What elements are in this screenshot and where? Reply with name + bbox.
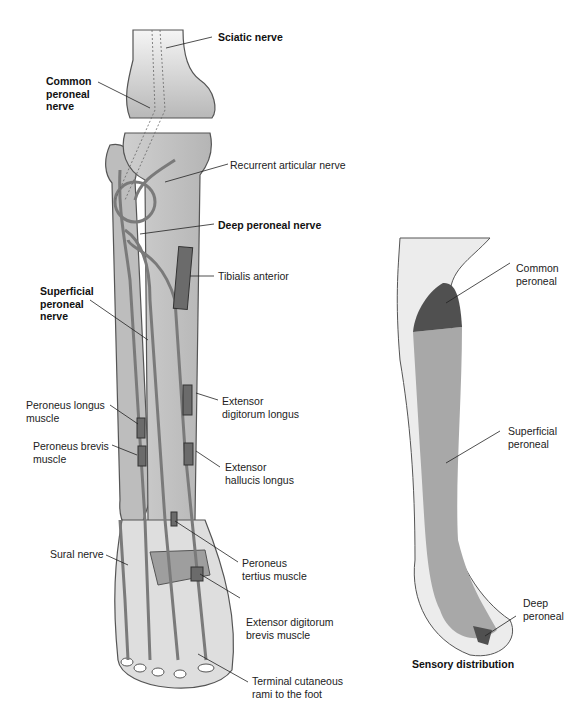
label-common-peroneal-nerve: Common peroneal nerve [46, 75, 92, 113]
label-extensor-hallucis-longus: Extensor hallucis longus [225, 461, 294, 486]
label-peroneus-tertius: Peroneus tertius muscle [242, 557, 307, 582]
label-peroneus-brevis: Peroneus brevis muscle [33, 440, 109, 465]
label-extensor-digitorum-longus: Extensor digitorum longus [222, 395, 299, 420]
label-tibialis-anterior: Tibialis anterior [218, 270, 289, 283]
label-deep-peroneal-nerve: Deep peroneal nerve [218, 219, 321, 232]
label-terminal-cutaneous-rami: Terminal cutaneous rami to the foot [252, 675, 343, 700]
label-peroneus-longus: Peroneus longus muscle [26, 399, 105, 424]
sensory-distribution-title: Sensory distribution [412, 658, 514, 671]
label-superficial-peroneal-nerve: Superficial peroneal nerve [40, 285, 94, 323]
label-sciatic-nerve: Sciatic nerve [218, 31, 283, 44]
label-extensor-digitorum-brevis: Extensor digitorum brevis muscle [246, 616, 334, 641]
femur [127, 30, 215, 118]
label-sensory-common-peroneal: Common peroneal [516, 262, 559, 287]
label-sensory-superficial-peroneal: Superficial peroneal [508, 425, 557, 450]
label-sensory-deep-peroneal: Deep peroneal [523, 597, 564, 622]
label-sural-nerve: Sural nerve [50, 548, 104, 561]
label-recurrent-articular-nerve: Recurrent articular nerve [230, 159, 346, 172]
